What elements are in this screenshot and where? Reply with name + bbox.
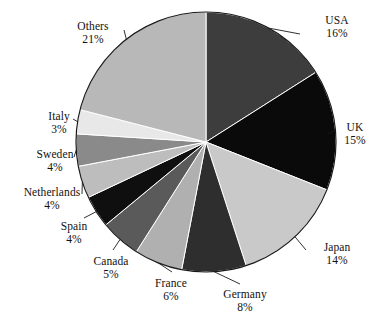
- slice-label-others-name: Others: [62, 20, 124, 33]
- slice-label-japan-name: Japan: [306, 241, 368, 254]
- slice-label-italy-pct: 3%: [34, 123, 84, 136]
- slice-label-usa-name: USA: [302, 14, 372, 27]
- pie-slice-group: [76, 12, 336, 272]
- slice-label-italy-name: Italy: [34, 110, 84, 123]
- slice-label-france-pct: 6%: [137, 290, 205, 303]
- slice-label-canada-name: Canada: [75, 255, 147, 268]
- slice-label-uk-pct: 15%: [330, 134, 380, 147]
- slice-label-others: Others 21%: [62, 20, 124, 46]
- slice-label-usa: USA 16%: [302, 14, 372, 40]
- slice-label-italy: Italy 3%: [34, 110, 84, 136]
- pie-chart: USA 16% UK 15% Japan 14% Germany 8% Fran…: [0, 0, 385, 330]
- leader-line-germany: [214, 272, 240, 284]
- slice-label-sweden-name: Sweden: [21, 148, 89, 161]
- slice-label-spain-name: Spain: [44, 220, 104, 233]
- slice-label-netherlands-pct: 4%: [8, 199, 96, 212]
- slice-label-spain-pct: 4%: [44, 233, 104, 246]
- slice-label-usa-pct: 16%: [302, 27, 372, 40]
- slice-label-france-name: France: [137, 277, 205, 290]
- leader-line-others: [124, 30, 126, 39]
- slice-label-canada-pct: 5%: [75, 268, 147, 281]
- slice-label-france: France 6%: [137, 277, 205, 303]
- slice-label-canada: Canada 5%: [75, 255, 147, 281]
- slice-label-netherlands: Netherlands 4%: [8, 186, 96, 212]
- slice-label-germany-name: Germany: [205, 288, 285, 301]
- leader-line-japan: [295, 237, 306, 250]
- leader-line-spain: [84, 212, 96, 218]
- slice-label-spain: Spain 4%: [44, 220, 104, 246]
- slice-label-germany-pct: 8%: [205, 301, 285, 314]
- slice-label-sweden: Sweden 4%: [21, 148, 89, 174]
- slice-label-japan-pct: 14%: [306, 254, 368, 267]
- slice-label-uk: UK 15%: [330, 121, 380, 147]
- slice-label-uk-name: UK: [330, 121, 380, 134]
- slice-label-netherlands-name: Netherlands: [8, 186, 96, 199]
- slice-label-japan: Japan 14%: [306, 241, 368, 267]
- slice-label-germany: Germany 8%: [205, 288, 285, 314]
- slice-label-others-pct: 21%: [62, 33, 124, 46]
- slice-label-sweden-pct: 4%: [21, 161, 89, 174]
- leader-line-canada: [113, 240, 120, 250]
